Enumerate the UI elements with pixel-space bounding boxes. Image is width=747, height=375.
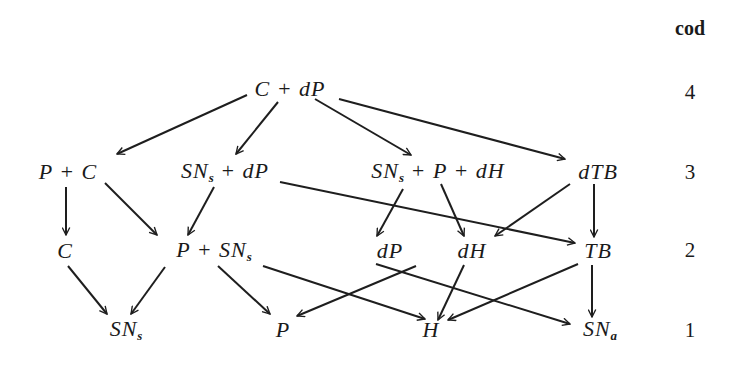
arrow-sns-dp-to-p-sns xyxy=(188,187,214,235)
node-p: P xyxy=(276,319,290,341)
edge-group xyxy=(66,95,594,324)
node-label: SN xyxy=(110,316,138,341)
node-label: P xyxy=(276,317,290,342)
node-p-c: P + C xyxy=(39,161,98,183)
arrow-p-sns-to-sns xyxy=(131,267,165,314)
node-subscript: a xyxy=(611,328,618,343)
arrow-p-sns-to-p xyxy=(218,266,270,314)
arrow-c-dp-to-dtb xyxy=(339,99,565,159)
node-label: SN xyxy=(181,158,209,183)
node-label: SN xyxy=(583,316,611,341)
node-sna: SNa xyxy=(583,318,617,342)
node-label: C xyxy=(57,238,73,263)
node-c: C xyxy=(57,240,73,262)
node-label: SN xyxy=(371,158,399,183)
level-label-1: 1 xyxy=(685,320,696,341)
node-p-sns: P + SNs xyxy=(176,239,252,263)
node-label: dTB xyxy=(578,159,618,184)
arrow-c-dp-to-sns-dp xyxy=(236,102,278,154)
node-sns-dp: SNs + dP xyxy=(181,160,269,184)
node-sns-p-dh: SNs + P + dH xyxy=(371,160,504,184)
node-dh: dH xyxy=(458,240,487,262)
node-subscript: s xyxy=(247,249,252,264)
node-label: TB xyxy=(584,238,612,263)
arrow-c-to-sns xyxy=(68,266,107,314)
arrow-c-dp-to-p-c xyxy=(117,95,247,154)
arrow-sns-p-dh-to-dp xyxy=(377,189,403,236)
node-label: P + SN xyxy=(176,237,247,262)
node-label: H xyxy=(423,317,440,342)
node-dp: dP xyxy=(377,240,403,262)
level-label-3: 3 xyxy=(685,162,696,183)
node-label: dP xyxy=(377,238,403,263)
arrow-sns-p-dh-to-dh xyxy=(441,184,464,236)
arrow-c-dp-to-sns-p-dh xyxy=(315,99,411,155)
node-dtb: dTB xyxy=(578,161,618,183)
arrow-sns-dp-to-tb xyxy=(280,182,575,243)
arrow-dp-to-p xyxy=(297,266,416,316)
level-header-cod: cod xyxy=(675,18,705,38)
node-label-tail: + dP xyxy=(214,158,269,183)
node-tb: TB xyxy=(584,240,612,262)
arrow-dh-to-h xyxy=(438,265,464,320)
node-label: P + C xyxy=(39,159,98,184)
node-c-dp: C + dP xyxy=(255,78,326,100)
node-sns: SNs xyxy=(110,318,143,342)
arrow-dp-to-sna xyxy=(376,264,570,324)
node-h: H xyxy=(423,319,440,341)
arrow-dtb-to-dh xyxy=(495,184,570,236)
node-label: dH xyxy=(458,238,487,263)
node-label-tail: + P + dH xyxy=(404,158,505,183)
level-label-2: 2 xyxy=(685,240,696,261)
level-label-4: 4 xyxy=(685,82,696,103)
node-label: C + dP xyxy=(255,76,326,101)
arrow-p-sns-to-h xyxy=(263,266,425,319)
arrow-p-c-to-p-sns xyxy=(105,183,157,235)
node-subscript: s xyxy=(137,328,142,343)
